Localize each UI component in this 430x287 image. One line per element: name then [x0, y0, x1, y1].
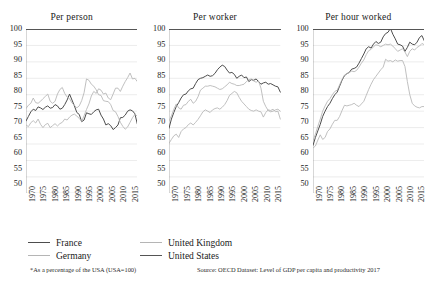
- y-tick-label: 60: [14, 149, 22, 157]
- x-tick-label: 1970: [172, 186, 180, 202]
- legend-label: Germany: [56, 251, 91, 261]
- y-tick-label: 95: [157, 40, 165, 48]
- y-tick-label: 80: [157, 87, 165, 95]
- x-tick-label: 1985: [63, 186, 71, 202]
- plot-area: [313, 29, 424, 184]
- legend-item-germany: Germany: [28, 249, 91, 262]
- y-tick-label: 85: [157, 71, 165, 79]
- x-tick-label: 1990: [75, 186, 83, 202]
- y-tick-label: 75: [14, 102, 22, 110]
- series-line-germany: [313, 43, 424, 140]
- chart-panel-2: Per worker505560657075808590951001970197…: [143, 12, 286, 234]
- y-tick-label: 95: [14, 40, 22, 48]
- x-axis-labels: 1970197519801985199019952000200520102015: [26, 186, 137, 232]
- panel-title: Per hour worked: [287, 12, 430, 22]
- x-tick-label: 2010: [264, 186, 272, 202]
- chart-panel-3: Per hour worked5055606570758085909510019…: [287, 12, 430, 234]
- x-tick-label: 2015: [275, 186, 283, 202]
- y-tick-label: 55: [300, 164, 308, 172]
- x-tick-label: 2000: [241, 186, 249, 202]
- x-tick-label: 1970: [29, 186, 37, 202]
- footnote-note: *As a percentage of the USA (USA=100): [30, 266, 136, 273]
- y-tick-label: 65: [157, 133, 165, 141]
- y-tick-label: 90: [14, 56, 22, 64]
- chart-legend: FranceGermanyUnited KingdomUnited States: [28, 236, 268, 262]
- y-tick-label: 85: [14, 71, 22, 79]
- legend-swatch-icon: [28, 255, 50, 256]
- y-tick-label: 100: [10, 25, 22, 33]
- x-tick-label: 1975: [184, 186, 192, 202]
- y-tick-label: 50: [14, 180, 22, 188]
- x-tick-label: 1995: [229, 186, 237, 202]
- x-tick-label: 2010: [120, 186, 128, 202]
- y-tick-label: 60: [157, 149, 165, 157]
- x-tick-label: 1990: [361, 186, 369, 202]
- y-tick-label: 55: [14, 164, 22, 172]
- y-tick-label: 50: [300, 180, 308, 188]
- x-tick-label: 2005: [252, 186, 260, 202]
- x-tick-label: 2005: [109, 186, 117, 202]
- y-tick-label: 65: [300, 133, 308, 141]
- chart-panel-1: Per person505560657075808590951001970197…: [0, 12, 143, 234]
- legend-swatch-icon: [140, 242, 162, 243]
- legend-item-united-states: United States: [140, 249, 219, 262]
- x-axis-labels: 1970197519801985199019952000200520102015: [313, 186, 424, 232]
- legend-label: United Kingdom: [168, 238, 232, 248]
- x-tick-label: 1975: [327, 186, 335, 202]
- x-tick-label: 1975: [40, 186, 48, 202]
- y-tick-label: 60: [300, 149, 308, 157]
- legend-swatch-icon: [140, 255, 162, 256]
- y-tick-label: 55: [157, 164, 165, 172]
- x-tick-label: 1995: [86, 186, 94, 202]
- plot-area: [169, 29, 280, 184]
- y-tick-label: 100: [296, 25, 308, 33]
- panel-title: Per person: [0, 12, 143, 22]
- x-tick-label: 1985: [207, 186, 215, 202]
- y-tick-label: 85: [300, 71, 308, 79]
- y-tick-label: 90: [157, 56, 165, 64]
- x-axis-labels: 1970197519801985199019952000200520102015: [169, 186, 280, 232]
- x-tick-label: 1980: [52, 186, 60, 202]
- series-line-france: [169, 65, 280, 128]
- y-tick-label: 75: [300, 102, 308, 110]
- y-tick-label: 70: [14, 118, 22, 126]
- x-tick-label: 1990: [218, 186, 226, 202]
- productivity-chart-figure: Per person505560657075808590951001970197…: [0, 0, 430, 287]
- y-tick-label: 95: [300, 40, 308, 48]
- y-tick-label: 80: [300, 87, 308, 95]
- x-tick-label: 1995: [373, 186, 381, 202]
- x-tick-label: 2005: [396, 186, 404, 202]
- y-axis-labels: 50556065707580859095100: [143, 29, 167, 184]
- x-tick-label: 2015: [132, 186, 140, 202]
- x-tick-label: 2000: [97, 186, 105, 202]
- x-tick-label: 2010: [407, 186, 415, 202]
- panel-row: Per person505560657075808590951001970197…: [0, 12, 430, 234]
- x-tick-label: 1985: [350, 186, 358, 202]
- x-tick-label: 1980: [195, 186, 203, 202]
- y-tick-label: 75: [157, 102, 165, 110]
- y-axis-labels: 50556065707580859095100: [0, 29, 24, 184]
- y-tick-label: 50: [157, 180, 165, 188]
- x-tick-label: 1980: [338, 186, 346, 202]
- y-tick-label: 80: [14, 87, 22, 95]
- legend-swatch-icon: [28, 242, 50, 243]
- legend-item-france: France: [28, 236, 82, 249]
- y-axis-labels: 50556065707580859095100: [287, 29, 311, 184]
- y-tick-label: 70: [157, 118, 165, 126]
- panel-title: Per worker: [143, 12, 286, 22]
- y-tick-label: 65: [14, 133, 22, 141]
- x-tick-label: 2015: [418, 186, 426, 202]
- y-tick-label: 90: [300, 56, 308, 64]
- y-tick-label: 70: [300, 118, 308, 126]
- series-line-united-kingdom: [169, 79, 280, 121]
- footnote-source: Source: OECD Dataset: Level of GDP per c…: [197, 266, 380, 273]
- legend-label: France: [56, 238, 82, 248]
- legend-item-united-kingdom: United Kingdom: [140, 236, 232, 249]
- y-tick-label: 100: [153, 25, 165, 33]
- legend-label: United States: [168, 251, 219, 261]
- series-line-germany: [169, 91, 280, 143]
- series-line-france: [313, 29, 424, 145]
- plot-area: [26, 29, 137, 184]
- x-tick-label: 2000: [384, 186, 392, 202]
- x-tick-label: 1970: [316, 186, 324, 202]
